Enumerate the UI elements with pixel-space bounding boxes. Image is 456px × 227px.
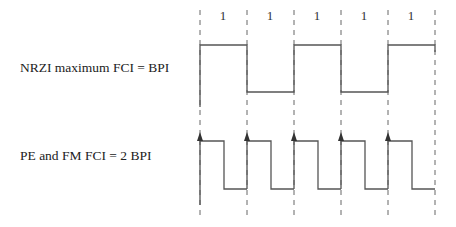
flux-reversal-arrows	[197, 132, 391, 141]
nrzi-waveform	[200, 45, 435, 107]
pe-fm-waveform	[200, 141, 435, 205]
timing-diagram	[0, 0, 456, 227]
